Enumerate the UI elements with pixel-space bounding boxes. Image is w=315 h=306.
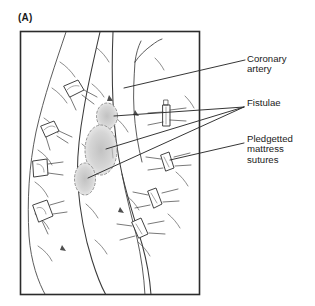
label-pledgetted-mattress-sutures: Pledgetted mattress sutures <box>247 134 293 165</box>
label-fistulae: Fistulae <box>247 98 281 108</box>
figure-page: (A) <box>0 0 315 306</box>
fistula-lower <box>75 163 96 195</box>
label-coronary-artery: Coronary artery <box>247 54 286 75</box>
